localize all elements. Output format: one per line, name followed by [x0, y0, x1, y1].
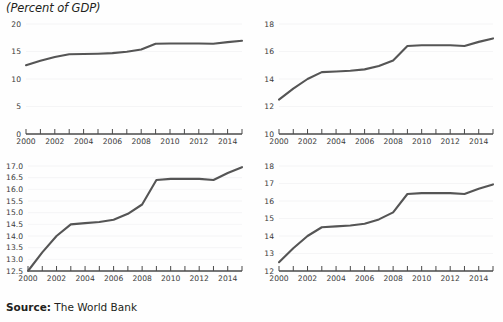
chart-top-left-svg: 0510152020002002200420062008201020122014 [0, 18, 252, 160]
source-label: Source: [6, 301, 51, 313]
y-tick-label: 20 [11, 20, 21, 29]
x-tick-label: 2006 [103, 137, 122, 146]
y-tick-label: 15 [264, 214, 274, 223]
y-tick-label: 14 [264, 75, 274, 84]
data-series-line [26, 41, 242, 65]
y-tick-label: 16.5 [6, 173, 23, 182]
x-tick-label: 2014 [218, 137, 237, 146]
y-tick-label: 10 [11, 75, 21, 84]
source-value: The World Bank [51, 301, 137, 313]
x-tick-label: 2004 [75, 274, 94, 283]
x-tick-label: 2004 [74, 137, 93, 146]
y-tick-label: 5 [16, 102, 21, 111]
chart-bottom-right-svg: 1213141516171820002002200420062008201020… [255, 160, 503, 295]
data-series-line [28, 167, 242, 271]
x-tick-label: 2002 [298, 137, 317, 146]
y-tick-label: 17 [264, 179, 274, 188]
y-tick-label: 13.0 [6, 255, 23, 264]
y-tick-label: 16.0 [6, 185, 23, 194]
x-tick-label: 2000 [269, 274, 288, 283]
x-tick-label: 2002 [298, 274, 317, 283]
x-tick-label: 2012 [441, 137, 460, 146]
x-tick-label: 2014 [469, 274, 488, 283]
x-tick-label: 2010 [161, 274, 180, 283]
x-tick-label: 2002 [47, 274, 66, 283]
y-tick-label: 15.0 [6, 208, 23, 217]
x-tick-label: 2010 [160, 137, 179, 146]
chart-bottom-left-svg: 12.513.013.514.014.515.015.516.016.517.0… [0, 160, 252, 295]
x-tick-label: 2000 [16, 137, 35, 146]
chart-top-right: 1012141618200020022004200620082010201220… [255, 18, 503, 160]
x-tick-label: 2012 [441, 274, 460, 283]
chart-top-left: 0510152020002002200420062008201020122014 [0, 18, 252, 160]
y-tick-label: 18 [264, 20, 274, 29]
data-series-line [279, 38, 493, 99]
chart-bottom-right: 1213141516171820002002200420062008201020… [255, 160, 503, 295]
y-tick-label: 14 [264, 232, 274, 241]
figure-panel: (Percent of GDP) 05101520200020022004200… [0, 0, 503, 322]
x-tick-label: 2000 [18, 274, 37, 283]
source-note: Source: The World Bank [6, 301, 137, 313]
x-tick-label: 2012 [189, 137, 208, 146]
x-tick-label: 2010 [412, 274, 431, 283]
y-tick-label: 18 [264, 162, 274, 171]
chart-top-right-svg: 1012141618200020022004200620082010201220… [255, 18, 503, 160]
y-tick-label: 14.5 [6, 220, 23, 229]
chart-bottom-left: 12.513.013.514.014.515.015.516.016.517.0… [0, 160, 252, 295]
x-tick-label: 2004 [326, 274, 345, 283]
x-tick-label: 2012 [190, 274, 209, 283]
x-tick-label: 2008 [132, 137, 151, 146]
y-tick-label: 12 [264, 102, 274, 111]
x-tick-label: 2002 [45, 137, 64, 146]
x-tick-label: 2006 [104, 274, 123, 283]
x-tick-label: 2008 [383, 137, 402, 146]
x-tick-label: 2014 [218, 274, 237, 283]
y-tick-label: 15 [11, 47, 21, 56]
y-tick-label: 15.5 [6, 197, 23, 206]
x-tick-label: 2008 [383, 274, 402, 283]
x-tick-label: 2006 [355, 137, 374, 146]
x-tick-label: 2006 [355, 274, 374, 283]
y-tick-label: 13.5 [6, 243, 23, 252]
y-tick-label: 14.0 [6, 232, 23, 241]
x-tick-label: 2008 [132, 274, 151, 283]
data-series-line [279, 184, 493, 262]
x-tick-label: 2010 [412, 137, 431, 146]
x-tick-label: 2014 [469, 137, 488, 146]
y-tick-label: 13 [264, 249, 274, 258]
y-tick-label: 16 [264, 197, 274, 206]
x-tick-label: 2000 [269, 137, 288, 146]
y-tick-label: 16 [264, 47, 274, 56]
page-title: (Percent of GDP) [6, 1, 100, 15]
x-tick-label: 2004 [326, 137, 345, 146]
y-tick-label: 17.0 [6, 162, 23, 171]
